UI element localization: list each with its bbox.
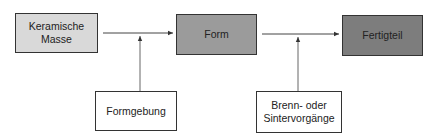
node-brenn-oder-sintervorgaenge: Brenn- oder Sintervorgänge (256, 91, 342, 133)
node-keramische-masse: Keramische Masse (15, 13, 98, 53)
node-label: Keramische Masse (29, 20, 84, 46)
node-fertigteil: Fertigteil (342, 15, 423, 56)
node-label: Brenn- oder Sintervorgänge (263, 99, 334, 125)
node-label: Form (204, 28, 229, 41)
node-label: Fertigteil (362, 29, 402, 42)
node-formgebung: Formgebung (95, 91, 177, 131)
node-form: Form (176, 14, 257, 55)
node-label: Formgebung (106, 105, 166, 118)
